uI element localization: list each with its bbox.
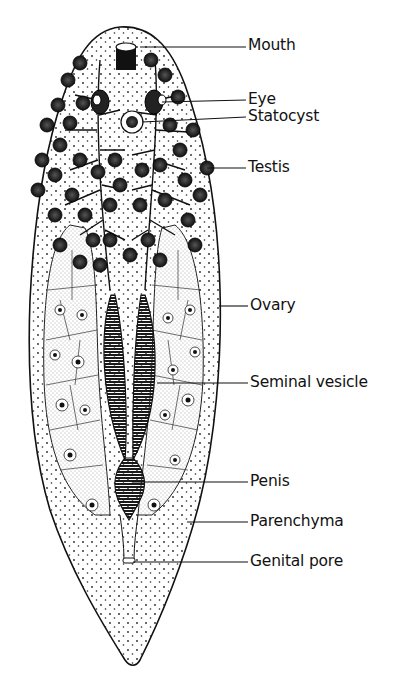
label-mouth: Mouth [248,38,296,54]
label-statocyst: Statocyst [248,109,319,125]
flatworm-diagram [0,0,402,677]
label-parenchyma: Parenchyma [250,514,344,530]
statocyst-structure [121,111,143,133]
label-eye: Eye [248,92,276,108]
label-testis: Testis [248,160,290,176]
label-ovary: Ovary [250,298,295,314]
label-penis: Penis [250,474,290,490]
mouth-structure [116,43,136,70]
label-genital-pore: Genital pore [250,554,343,570]
label-seminal-vesicle: Seminal vesicle [250,375,368,391]
